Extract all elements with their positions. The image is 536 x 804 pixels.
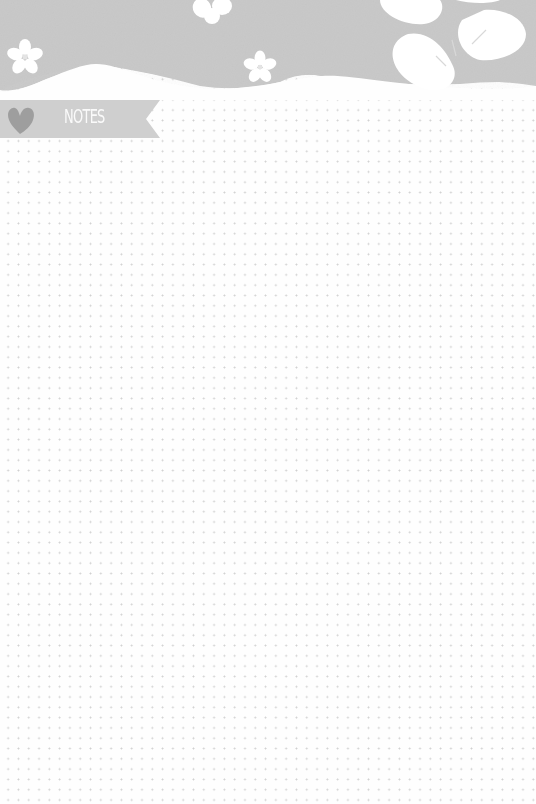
heart-icon	[6, 106, 36, 136]
page-title: NOTES	[64, 104, 105, 128]
scalloped-header	[0, 0, 536, 100]
